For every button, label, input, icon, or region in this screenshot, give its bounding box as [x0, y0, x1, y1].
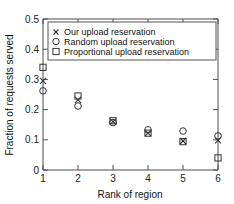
y-axis-label: Fraction of requests served — [4, 34, 15, 155]
chart-figure: 0 0.1 0.2 0.3 0.4 0.5 1 2 3 4 — [0, 0, 234, 204]
y-tick-label: 0.3 — [25, 74, 39, 85]
data-point-circle-3 — [110, 119, 117, 126]
x-tick-label: 4 — [145, 173, 151, 184]
y-axis-tick-labels: 0 0.1 0.2 0.3 0.4 0.5 — [25, 14, 39, 176]
x-tick-label: 6 — [215, 173, 221, 184]
circle-marker-icon — [110, 119, 117, 126]
x-axis-label: Rank of region — [97, 189, 162, 200]
y-tick-label: 0 — [33, 165, 39, 176]
x-tick-label: 2 — [75, 173, 81, 184]
x-tick-label: 1 — [40, 173, 46, 184]
data-point-x-2 — [75, 97, 81, 103]
series-x — [40, 78, 221, 144]
circle-marker-icon — [180, 128, 187, 135]
circle-marker-icon — [75, 103, 82, 110]
legend-label: Our upload reservation — [64, 27, 156, 37]
legend-entry-our: Our upload reservation — [54, 27, 156, 37]
y-tick-label: 0.4 — [25, 44, 39, 55]
y-tick-label: 0.2 — [25, 104, 39, 115]
x-tick-label: 3 — [110, 173, 116, 184]
data-point-circle-2 — [75, 103, 82, 110]
scatter-plot: 0 0.1 0.2 0.3 0.4 0.5 1 2 3 4 — [0, 0, 234, 204]
x-tick-label: 5 — [180, 173, 186, 184]
legend-label: Proportional upload reservation — [64, 47, 189, 57]
legend: Our upload reservation Random upload res… — [48, 22, 216, 60]
y-tick-label: 0.5 — [25, 14, 39, 25]
data-point-circle-5 — [180, 128, 187, 135]
series-circle — [40, 88, 222, 140]
data-series-layer — [40, 64, 222, 161]
y-tick-label: 0.1 — [25, 134, 39, 145]
series-square — [40, 64, 221, 161]
legend-entry-random: Random upload reservation — [53, 37, 175, 47]
x-axis-tick-labels: 1 2 3 4 5 6 — [40, 173, 221, 184]
legend-entry-proportional: Proportional upload reservation — [53, 47, 189, 57]
legend-label: Random upload reservation — [64, 37, 175, 47]
